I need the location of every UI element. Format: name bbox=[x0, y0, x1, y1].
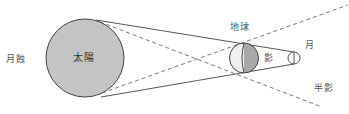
umbra-label: 影 bbox=[264, 53, 274, 63]
eclipse-label: 月蝕 bbox=[6, 54, 26, 64]
umbra-line-lower bbox=[101, 64, 294, 97]
moon-label: 月 bbox=[305, 40, 315, 50]
umbra-line-upper bbox=[96, 20, 294, 52]
earth bbox=[229, 43, 258, 73]
sun-label: 太陽 bbox=[73, 53, 95, 63]
earth-label: 地球 bbox=[230, 22, 250, 32]
penumbra-label: 半影 bbox=[314, 83, 334, 93]
moon bbox=[288, 52, 300, 64]
lunar-eclipse-diagram bbox=[0, 0, 349, 114]
